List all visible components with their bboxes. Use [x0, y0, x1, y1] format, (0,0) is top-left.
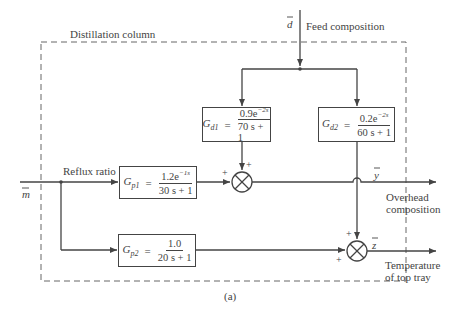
block-gp2: Gp2 = 1.0 20 s + 1: [118, 234, 196, 267]
block-gp1: Gp1 = 1.2e−1s 30 s + 1: [119, 166, 197, 199]
feed-composition-label: Feed composition: [306, 20, 385, 32]
gp1-name: Gp1: [124, 175, 140, 190]
gp2-name: Gp2: [123, 243, 139, 258]
m-symbol: m: [22, 188, 30, 200]
y-symbol: y: [374, 169, 379, 181]
boundary-label: Distillation column: [70, 28, 155, 40]
overhead-label-line2: composition: [386, 203, 440, 215]
d-symbol: d: [287, 18, 293, 30]
sum2-left-sign: +: [336, 254, 342, 265]
summing-junction-1: [232, 172, 252, 192]
y-output-line: [252, 178, 436, 182]
block-gd2: Gd2 = 0.2e−2s 60 s + 1: [318, 107, 395, 142]
sum2-top-sign: +: [346, 228, 352, 239]
temperature-label-line1: Temperature: [385, 259, 440, 271]
sum1-left-sign: +: [222, 167, 228, 178]
z-symbol: z: [372, 239, 376, 251]
sum1-top-sign: +: [246, 159, 252, 170]
overhead-label-line1: Overhead: [386, 191, 429, 203]
figure-caption: (a): [224, 290, 236, 302]
gd1-name: Gd1: [203, 117, 219, 132]
reflux-ratio-label: Reflux ratio: [63, 165, 116, 177]
summing-junction-2: [347, 241, 367, 261]
block-gd1: Gd1 = 0.9e−2s 70 s + 1: [202, 107, 271, 142]
temperature-label-line2: of top tray: [385, 271, 431, 283]
gd2-name: Gd2: [322, 117, 338, 132]
